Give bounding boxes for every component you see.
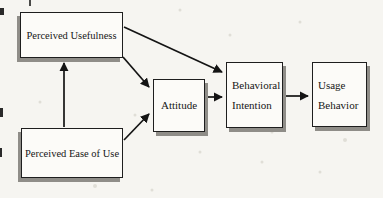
scan-artifact-mark bbox=[29, 0, 31, 6]
node-attitude: Attitude bbox=[153, 79, 205, 132]
node-perceived-usefulness: Perceived Usefulness bbox=[20, 12, 123, 58]
arrow-usefulness-to-attitude bbox=[123, 57, 149, 87]
node-usage-behavior-label: Usage Behavior bbox=[318, 75, 366, 115]
node-perceived-ease-of-use: Perceived Ease of Use bbox=[21, 128, 123, 178]
node-behavioral-intention: Behavioral Intention bbox=[226, 62, 283, 128]
node-usage-behavior: Usage Behavior bbox=[312, 62, 367, 127]
node-attitude-label: Attitude bbox=[161, 99, 197, 112]
scan-artifact-mark bbox=[0, 148, 2, 157]
arrow-ease-of-use-to-attitude bbox=[124, 114, 149, 140]
node-perceived-usefulness-label: Perceived Usefulness bbox=[26, 29, 116, 42]
scan-artifact-mark bbox=[0, 108, 3, 117]
arrow-usefulness-to-behavioral-intention bbox=[124, 27, 222, 72]
node-perceived-ease-of-use-label: Perceived Ease of Use bbox=[25, 147, 119, 160]
diagram-canvas: Perceived Usefulness Perceived Ease of U… bbox=[0, 0, 383, 198]
node-behavioral-intention-label: Behavioral Intention bbox=[232, 75, 282, 115]
scan-artifact-mark bbox=[0, 8, 4, 15]
